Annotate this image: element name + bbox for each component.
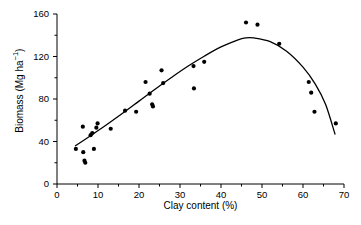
data-point	[277, 42, 281, 46]
data-point	[334, 121, 338, 125]
data-point	[307, 80, 311, 84]
fit-curve	[75, 38, 335, 146]
y-tick-label: 40	[23, 137, 49, 147]
y-tick-label: 160	[23, 9, 49, 19]
data-point	[83, 161, 87, 165]
data-point	[81, 125, 85, 129]
x-tick-label: 50	[250, 190, 274, 200]
data-point	[191, 64, 195, 68]
data-point	[90, 131, 94, 135]
data-point	[74, 147, 78, 151]
data-points	[74, 20, 338, 164]
data-point	[95, 121, 99, 125]
x-tick-label: 40	[209, 190, 233, 200]
data-point	[159, 68, 163, 72]
y-tick-label: 80	[23, 94, 49, 104]
data-point	[148, 92, 152, 96]
data-point	[94, 126, 98, 130]
axes	[57, 14, 344, 184]
data-point	[151, 104, 155, 108]
data-point	[123, 109, 127, 113]
x-tick-label: 20	[127, 190, 151, 200]
data-point	[244, 20, 248, 24]
x-axis-title: Clay content (%)	[57, 200, 344, 211]
data-point	[81, 150, 85, 154]
data-point	[309, 91, 313, 95]
y-axis-title-superscript: −1	[11, 52, 20, 61]
y-axis-ticks	[53, 14, 57, 184]
data-point	[192, 86, 196, 90]
x-tick-label: 0	[45, 190, 69, 200]
data-point	[202, 60, 206, 64]
data-point	[143, 80, 147, 84]
data-point	[255, 23, 259, 27]
data-point	[134, 110, 138, 114]
x-tick-label: 70	[332, 190, 356, 200]
chart-container: Biomass (Mg ha−1) Clay content (%) 04080…	[0, 0, 361, 225]
x-tick-label: 10	[86, 190, 110, 200]
x-tick-label: 30	[168, 190, 192, 200]
y-tick-label: 120	[23, 52, 49, 62]
y-tick-label: 0	[23, 179, 49, 189]
x-tick-label: 60	[291, 190, 315, 200]
data-point	[161, 81, 165, 85]
data-point	[312, 110, 316, 114]
x-axis-ticks	[57, 184, 344, 188]
data-point	[92, 147, 96, 151]
data-point	[109, 127, 113, 131]
